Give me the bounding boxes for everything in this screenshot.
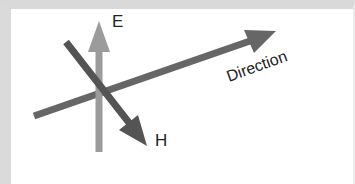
direction-label: Direction [224,47,289,85]
h-field-arrow [66,42,147,146]
h-field-label: H [155,131,167,150]
e-field-label: E [112,12,123,31]
diagram-canvas: E H Direction [0,0,355,184]
diagram-frame: E H Direction [0,0,355,184]
